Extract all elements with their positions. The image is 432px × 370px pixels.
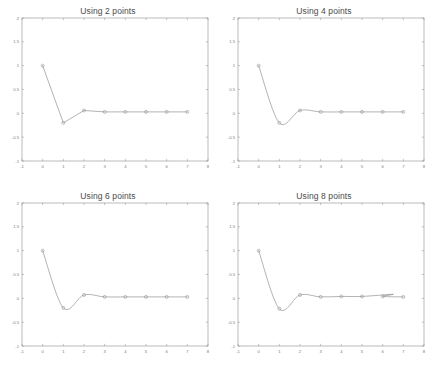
x-tick-label: 3	[103, 349, 106, 354]
plot-axes-0: -1012345678-1-0.500.511.52	[0, 0, 216, 185]
x-tick-label: 3	[103, 164, 106, 169]
y-tick-label: 0	[17, 111, 20, 116]
x-tick-label: 0	[41, 164, 44, 169]
y-tick-label: -0.5	[12, 320, 20, 325]
x-tick-label: 6	[381, 349, 384, 354]
x-tick-label: 8	[207, 349, 210, 354]
y-tick-label: 2	[17, 201, 20, 206]
x-tick-label: 5	[361, 164, 364, 169]
y-tick-label: -1	[231, 344, 235, 349]
x-tick-label: 8	[207, 164, 210, 169]
subplot-using-8-points: Using 8 points -1012345678-1-0.500.511.5…	[216, 185, 432, 370]
plot-axes-1: -1012345678-1-0.500.511.52	[216, 0, 432, 185]
x-tick-label: 2	[83, 349, 86, 354]
x-tick-label: 6	[381, 164, 384, 169]
x-tick-label: 4	[340, 164, 343, 169]
y-tick-label: 0.5	[229, 272, 235, 277]
subplot-using-2-points: Using 2 points -1012345678-1-0.500.511.5…	[0, 0, 216, 185]
x-tick-label: 8	[423, 164, 426, 169]
x-tick-label: -1	[20, 349, 24, 354]
y-tick-label: 1.5	[229, 224, 235, 229]
x-tick-label: -1	[20, 164, 24, 169]
y-tick-label: 1	[17, 248, 20, 253]
x-tick-label: 4	[124, 164, 127, 169]
x-tick-label: 0	[41, 349, 44, 354]
x-tick-label: 4	[124, 349, 127, 354]
y-tick-label: -1	[231, 159, 235, 164]
data-series-line	[43, 251, 188, 310]
y-tick-label: -1	[15, 159, 19, 164]
x-tick-label: 3	[319, 164, 322, 169]
y-tick-label: 0	[233, 296, 236, 301]
y-tick-label: -0.5	[12, 135, 20, 140]
y-tick-label: 0.5	[13, 87, 19, 92]
y-tick-label: 1	[17, 63, 20, 68]
plot-axes-3: -1012345678-1-0.500.511.52	[216, 185, 432, 370]
x-tick-label: 0	[257, 349, 260, 354]
x-tick-label: 5	[361, 349, 364, 354]
x-tick-label: 5	[145, 164, 148, 169]
y-tick-label: 2	[233, 16, 236, 21]
x-tick-label: 7	[186, 349, 189, 354]
y-tick-label: 0.5	[13, 272, 19, 277]
y-tick-label: 2	[233, 201, 236, 206]
x-tick-label: -1	[236, 349, 240, 354]
data-series-line	[259, 66, 404, 125]
y-tick-label: 0.5	[229, 87, 235, 92]
x-tick-label: 6	[165, 164, 168, 169]
x-tick-label: 4	[340, 349, 343, 354]
x-tick-label: 1	[62, 349, 65, 354]
y-tick-label: 0	[17, 296, 20, 301]
y-tick-label: -0.5	[228, 320, 236, 325]
x-tick-label: 1	[278, 164, 281, 169]
x-tick-label: 2	[299, 349, 302, 354]
figure-canvas: Using 2 points -1012345678-1-0.500.511.5…	[0, 0, 432, 370]
x-tick-label: 5	[145, 349, 148, 354]
y-tick-label: 1	[233, 63, 236, 68]
data-series-line	[259, 251, 404, 311]
x-tick-label: -1	[236, 164, 240, 169]
y-tick-label: -0.5	[228, 135, 236, 140]
x-tick-label: 7	[186, 164, 189, 169]
subplot-using-4-points: Using 4 points -1012345678-1-0.500.511.5…	[216, 0, 432, 185]
y-tick-label: 1.5	[13, 224, 19, 229]
x-tick-label: 6	[165, 349, 168, 354]
data-series-line	[43, 66, 188, 123]
y-tick-label: 1.5	[13, 39, 19, 44]
x-tick-label: 1	[278, 349, 281, 354]
plot-axes-2: -1012345678-1-0.500.511.52	[0, 185, 216, 370]
x-tick-label: 2	[299, 164, 302, 169]
y-tick-label: 1.5	[229, 39, 235, 44]
y-tick-label: 2	[17, 16, 20, 21]
x-tick-label: 2	[83, 164, 86, 169]
x-tick-label: 0	[257, 164, 260, 169]
x-tick-label: 3	[319, 349, 322, 354]
x-tick-label: 7	[402, 164, 405, 169]
subplot-using-6-points: Using 6 points -1012345678-1-0.500.511.5…	[0, 185, 216, 370]
x-tick-label: 8	[423, 349, 426, 354]
y-tick-label: 0	[233, 111, 236, 116]
y-tick-label: -1	[15, 344, 19, 349]
y-tick-label: 1	[233, 248, 236, 253]
x-tick-label: 1	[62, 164, 65, 169]
x-tick-label: 7	[402, 349, 405, 354]
